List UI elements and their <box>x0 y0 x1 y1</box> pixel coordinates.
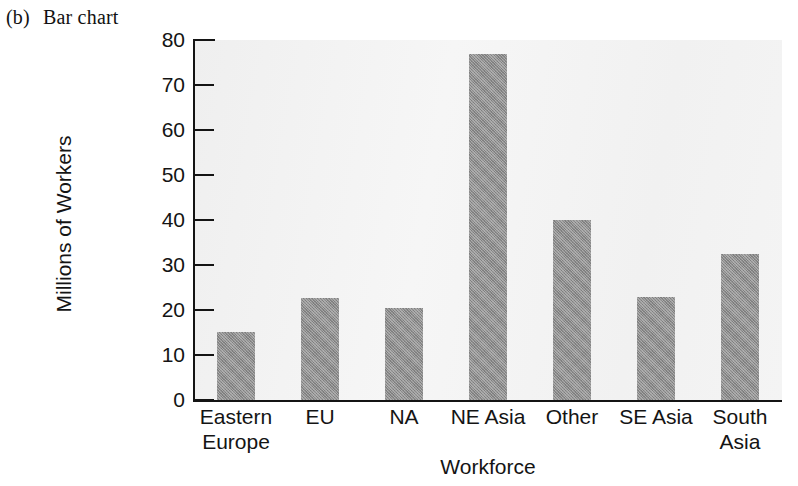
x-category-label-line1: South <box>713 405 768 428</box>
x-category-label: SouthAsia <box>698 404 782 454</box>
x-category-label-line1: Eastern <box>200 405 272 428</box>
bar <box>553 220 591 400</box>
bar <box>301 298 339 400</box>
y-tick-label-text: 70 <box>133 74 185 95</box>
y-tick-label-text: 50 <box>133 164 185 185</box>
y-tick-label-text: 80 <box>133 29 185 50</box>
y-tick-label-text: 10 <box>133 344 185 365</box>
x-category-label: EasternEurope <box>194 404 278 454</box>
y-tick-label-text: 40 <box>133 209 185 230</box>
bar <box>469 54 507 401</box>
y-tick-label-text: 30 <box>133 254 185 275</box>
x-axis-category-labels: EasternEuropeEUNANE AsiaOtherSE AsiaSout… <box>194 404 782 462</box>
bar-chart: 01020304050607080 EasternEuropeEUNANE As… <box>0 0 798 486</box>
x-category-label: NA <box>362 404 446 429</box>
x-category-label: NE Asia <box>446 404 530 429</box>
bar <box>385 308 423 400</box>
y-axis-title: Millions of Workers <box>52 94 76 354</box>
bar-series <box>194 40 782 400</box>
x-category-label: SE Asia <box>614 404 698 429</box>
x-category-label-line2: Asia <box>698 429 782 454</box>
x-axis-title: Workforce <box>194 455 782 479</box>
x-category-label-line2: Europe <box>194 429 278 454</box>
bar <box>217 332 255 400</box>
bar <box>721 254 759 400</box>
y-tick-label-text: 0 <box>133 389 185 410</box>
x-category-label-line1: SE Asia <box>619 405 693 428</box>
y-tick-label-text: 20 <box>133 299 185 320</box>
x-category-label-line1: NE Asia <box>451 405 526 428</box>
x-category-label-line1: Other <box>546 405 599 428</box>
x-category-label-line1: NA <box>389 405 418 428</box>
x-category-label: Other <box>530 404 614 429</box>
bar <box>637 297 675 400</box>
y-tick-label-text: 60 <box>133 119 185 140</box>
x-category-label: EU <box>278 404 362 429</box>
x-category-label-line1: EU <box>305 405 334 428</box>
